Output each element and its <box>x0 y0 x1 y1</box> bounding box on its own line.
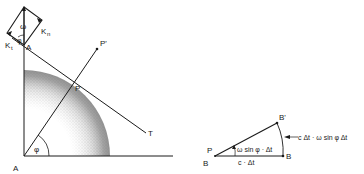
end-label-b: B <box>286 152 291 161</box>
point-p-dot <box>214 155 216 157</box>
apex-label-p: P <box>207 146 212 155</box>
arc-segment <box>277 123 283 156</box>
point-p-prime-dot <box>96 48 99 51</box>
base-length-label: c · Δt <box>238 159 254 166</box>
apex-label-b: B <box>203 159 208 168</box>
small-angle-label: φ <box>17 37 22 45</box>
kn-subscript: n <box>47 31 50 37</box>
point-b-dot <box>282 155 285 158</box>
surface-point-label-p: P <box>75 84 80 93</box>
origin-label-a: A <box>13 164 19 173</box>
rotated-label-b-prime: B' <box>279 113 286 122</box>
outer-point-label-p-prime: P' <box>100 39 107 48</box>
omega-label: ω <box>20 22 26 31</box>
right-diagram: P B B B' c · Δt ω sin φ · Δt c Δt · ω si… <box>203 113 347 168</box>
angle-expression-label: ω sin φ · Δt <box>237 146 272 154</box>
annotation-arrowhead <box>284 135 290 139</box>
top-point-label-a: A <box>26 43 32 52</box>
kt-subscript: t <box>11 45 13 51</box>
arc-length-label: c Δt · ω sin φ Δt <box>298 134 347 142</box>
left-diagram: φ A P P' T ω φ K n K t A <box>5 6 173 173</box>
point-b-prime-dot <box>276 122 279 125</box>
angle-phi-label: φ <box>34 145 39 154</box>
tangent-end-label-t: T <box>148 129 153 138</box>
diagram-canvas: φ A P P' T ω φ K n K t A <box>0 0 364 174</box>
